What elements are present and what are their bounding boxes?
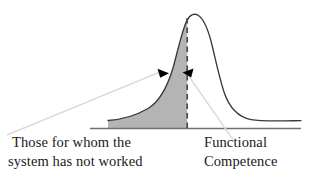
right-annotation-line-2: Competence xyxy=(204,152,277,171)
distribution-figure: Those for whom the system has not worked… xyxy=(0,0,313,182)
distribution-curve xyxy=(108,14,301,121)
left-annotation-label: Those for whom the system has not worked xyxy=(12,133,143,171)
left-annotation-line-2: system has not worked xyxy=(8,152,143,171)
right-annotation-line-1: Functional xyxy=(204,133,277,152)
shaded-area-region xyxy=(108,20,187,129)
right-leader-line xyxy=(188,75,234,141)
right-annotation-label: Functional Competence xyxy=(204,133,277,171)
left-arrowhead-icon xyxy=(158,69,170,78)
left-annotation-line-1: Those for whom the xyxy=(12,133,143,152)
